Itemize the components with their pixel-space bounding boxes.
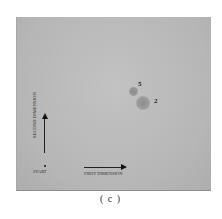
spot-2	[136, 96, 150, 110]
first-dimension-label: FIRST DIMENSION	[84, 171, 123, 176]
arrow-up-icon	[42, 113, 48, 119]
spot-label-5: 5	[138, 80, 142, 88]
figure-caption: ( c )	[100, 193, 121, 204]
spot-label-2: 2	[154, 97, 158, 105]
start-point-icon	[44, 165, 46, 167]
spot-5	[129, 87, 138, 96]
second-dimension-label: SECOND DIMENSION	[32, 92, 37, 138]
arrow-right-icon	[121, 164, 127, 170]
first-dimension-arrow-shaft	[84, 167, 122, 168]
start-label: START	[33, 169, 47, 174]
second-dimension-arrow-shaft	[44, 118, 45, 153]
